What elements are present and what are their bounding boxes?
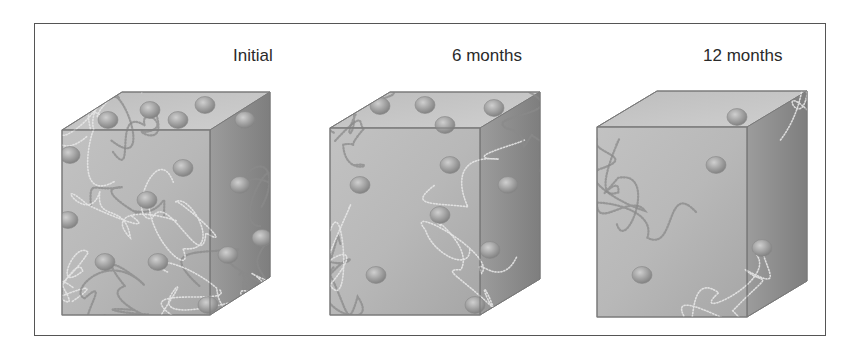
particle (350, 177, 370, 194)
particle (235, 112, 255, 129)
particle (498, 177, 518, 194)
particle (752, 240, 772, 257)
cube-side-face (747, 91, 807, 317)
particle (480, 242, 500, 259)
particle (98, 112, 118, 129)
cube-front-face (330, 128, 480, 315)
particle (727, 109, 747, 126)
particle (440, 157, 460, 174)
particle (95, 254, 115, 271)
particle (195, 97, 215, 114)
particle (435, 117, 455, 134)
particle (140, 102, 160, 119)
particle (632, 267, 652, 284)
particle (706, 157, 726, 174)
particle (366, 267, 386, 284)
particle (230, 177, 250, 194)
cube-side-face (480, 92, 540, 315)
particle (252, 230, 272, 247)
particle (430, 207, 450, 224)
particle (60, 147, 80, 164)
cube-0 (51, 75, 286, 332)
particle (58, 212, 78, 229)
particle (484, 100, 504, 117)
cube-1 (324, 62, 548, 315)
particle (370, 98, 390, 115)
cube-2 (594, 81, 827, 326)
particle (148, 254, 168, 271)
particle (198, 297, 218, 314)
particle (218, 247, 238, 264)
cube-front-face (597, 127, 747, 317)
cube-front-face (62, 130, 210, 315)
particle (465, 297, 485, 314)
particle (137, 192, 157, 209)
cubes-illustration (0, 0, 857, 359)
particle (168, 112, 188, 129)
particle (415, 97, 435, 114)
particle (173, 160, 193, 177)
